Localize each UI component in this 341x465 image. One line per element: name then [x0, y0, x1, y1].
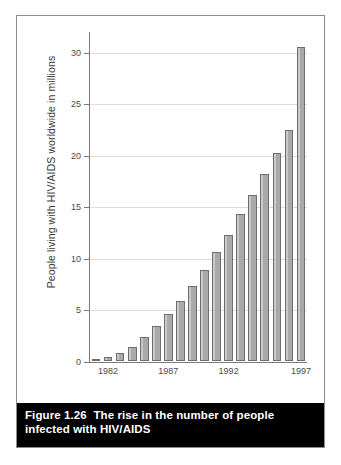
bar: [273, 153, 282, 361]
figure-caption-text: Figure 1.26 The rise in the number of pe…: [25, 408, 316, 436]
bar: [285, 130, 294, 361]
y-tick-label: 5: [76, 305, 81, 315]
bar: [188, 286, 197, 361]
y-axis-label: People living with HIV/AIDS worldwide in…: [45, 42, 57, 302]
y-tick-label: 20: [71, 151, 81, 161]
bar: [116, 353, 125, 361]
bar: [224, 235, 233, 361]
bar: [164, 314, 173, 361]
chart-axes: 051015202530 1982198719921997: [89, 32, 307, 362]
bar: [260, 174, 269, 361]
bar: [212, 252, 221, 361]
y-tick-mark: [84, 104, 89, 105]
bar: [92, 359, 101, 361]
y-tick-mark: [84, 259, 89, 260]
bar: [152, 326, 161, 361]
bar: [140, 337, 149, 361]
bar: [176, 301, 185, 361]
bar: [236, 214, 245, 361]
x-tick-label: 1982: [98, 366, 118, 376]
figure-container: People living with HIV/AIDS worldwide in…: [16, 15, 325, 448]
chart-plot-area: People living with HIV/AIDS worldwide in…: [17, 16, 326, 391]
y-tick-mark: [84, 362, 89, 363]
figure-caption-label: Figure 1.26: [25, 409, 87, 421]
bar-series: [90, 32, 307, 361]
y-tick-mark: [84, 310, 89, 311]
x-tick-label: 1992: [219, 366, 239, 376]
y-tick-label: 25: [71, 99, 81, 109]
bar: [104, 357, 113, 361]
bar: [297, 47, 306, 361]
bar: [200, 270, 209, 362]
x-tick-label: 1997: [291, 366, 311, 376]
y-tick-mark: [84, 156, 89, 157]
y-tick-mark: [84, 53, 89, 54]
y-tick-label: 10: [71, 254, 81, 264]
y-tick-mark: [84, 207, 89, 208]
y-tick-label: 30: [71, 48, 81, 58]
bar: [128, 347, 137, 361]
figure-caption-bar: Figure 1.26 The rise in the number of pe…: [17, 403, 324, 447]
y-tick-label: 15: [71, 202, 81, 212]
y-tick-label: 0: [76, 357, 81, 367]
bar: [248, 195, 257, 361]
x-tick-label: 1987: [158, 366, 178, 376]
x-axis-line: [89, 362, 307, 363]
